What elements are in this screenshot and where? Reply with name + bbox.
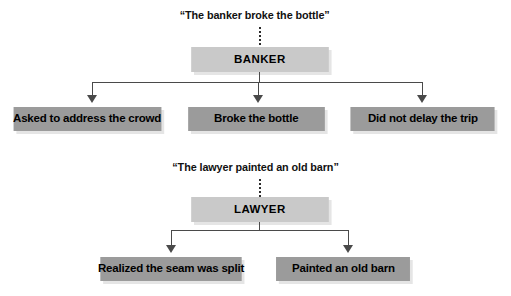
caption-lawyer: “The lawyer painted an old barn”: [130, 162, 380, 174]
caption-banker-text: “The banker broke the bottle”: [180, 10, 330, 22]
connector-lawyer-drop-2: [348, 230, 349, 246]
diagram-root: “The banker broke the bottle” BANKER Ask…: [0, 0, 511, 296]
node-banker-subject-label: BANKER: [234, 54, 286, 66]
caption-banker: “The banker broke the bottle”: [130, 10, 380, 22]
node-banker-subject[interactable]: BANKER: [191, 47, 329, 72]
connector-banker-drop-2: [258, 82, 259, 96]
node-lawyer-child-2-label: Painted an old barn: [292, 263, 395, 275]
node-lawyer-child-1-label: Realized the seam was split: [98, 263, 244, 275]
node-lawyer-subject-label: LAWYER: [234, 204, 286, 216]
connector-banker-drop-3: [422, 82, 423, 96]
connector-banker-drop-1: [92, 82, 93, 96]
node-lawyer-child-1[interactable]: Realized the seam was split: [100, 257, 241, 281]
node-banker-child-1[interactable]: Asked to address the crowd: [14, 107, 162, 131]
arrow-down-icon-lawyer-2: [343, 245, 353, 253]
node-banker-child-2-label: Broke the bottle: [214, 113, 298, 125]
arrow-down-icon-banker-2: [253, 95, 263, 103]
dotted-link-banker: [259, 27, 261, 45]
arrow-down-icon-banker-1: [87, 95, 97, 103]
connector-lawyer-hbar: [171, 230, 349, 231]
node-banker-child-3-label: Did not delay the trip: [368, 113, 478, 125]
connector-lawyer-drop-1: [171, 230, 172, 246]
node-banker-child-2[interactable]: Broke the bottle: [188, 107, 325, 131]
node-banker-child-1-label: Asked to address the crowd: [13, 113, 161, 125]
arrow-down-icon-lawyer-1: [166, 245, 176, 253]
node-banker-child-3[interactable]: Did not delay the trip: [350, 107, 494, 131]
node-lawyer-subject[interactable]: LAWYER: [191, 197, 329, 222]
dotted-link-lawyer: [259, 179, 261, 197]
node-lawyer-child-2[interactable]: Painted an old barn: [276, 257, 410, 281]
caption-lawyer-text: “The lawyer painted an old barn”: [172, 162, 338, 174]
arrow-down-icon-banker-3: [417, 95, 427, 103]
